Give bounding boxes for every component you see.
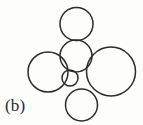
circle-right: [87, 47, 136, 96]
circle-left: [28, 52, 68, 92]
circle-bottom: [66, 89, 98, 121]
circle-center-small: [62, 70, 78, 86]
circle-top: [60, 8, 93, 41]
figure-panel: (b): [0, 0, 143, 125]
figure-label: (b): [5, 96, 25, 116]
